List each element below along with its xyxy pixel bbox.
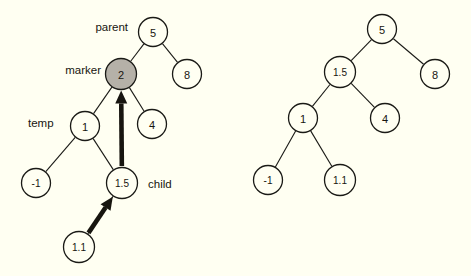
tree-node-1.5[interactable]: 1.5 [325,57,356,88]
tree-node-8[interactable]: 8 [173,60,202,89]
tree-edge-5-to-1.5 [351,40,371,61]
arrow-1.5-to-2 [115,91,127,167]
tree-edge-1-to-1.5 [93,139,113,170]
node-value--1: -1 [264,175,273,186]
tree-node-1[interactable]: 1 [71,112,100,141]
tree-node-2[interactable]: 2 [106,59,137,90]
right-tree-nodes-group: 51.5814-11.1 [254,15,450,196]
tree-edge-5-to-2 [131,44,144,61]
annotation-child: child [148,178,172,190]
node-value-1.1: 1.1 [333,175,347,186]
node-value-4: 4 [149,119,155,131]
tree-node-4[interactable]: 4 [138,110,167,139]
node-value-8: 8 [184,69,190,81]
node-value--1: -1 [32,178,41,189]
arrow-1.5-to-2-shaft [121,104,122,167]
tree-diagram-figure: 52814-11.51.1parentmarkertempchild51.581… [0,0,471,276]
tree-node--1[interactable]: -1 [254,166,283,195]
node-value-1.5: 1.5 [115,178,129,189]
annotation-marker: marker [65,64,101,76]
node-value-8: 8 [432,69,438,81]
tree-node-5[interactable]: 5 [139,18,168,47]
tree-node-1[interactable]: 1 [289,104,318,133]
tree-edge-5-to-8 [162,44,177,63]
tree-node--1[interactable]: -1 [22,169,51,198]
tree-edge-1.5-to-1 [312,84,330,106]
left-tree-nodes-group: 52814-11.51.1 [22,18,202,263]
node-value-1: 1 [300,113,306,125]
tree-edge-1-to-1.1 [311,131,332,166]
tree-edge-1-to--1 [46,137,75,171]
tree-node-5[interactable]: 5 [368,15,397,44]
right-tree-edges-group [275,39,423,167]
tree-node-1.1[interactable]: 1.1 [325,165,356,196]
arrow-1.5-to-2-head [115,91,127,104]
annotation-parent: parent [95,21,128,33]
arrow-1.1-to-1.5 [88,197,112,233]
tree-node-1.1[interactable]: 1.1 [64,232,95,263]
node-value-5: 5 [379,24,385,36]
tree-edge-2-to-1 [94,87,112,114]
node-value-5: 5 [150,27,156,39]
tree-edge-1-to--1 [275,131,295,167]
node-value-2: 2 [118,69,124,81]
node-value-1.1: 1.1 [72,242,86,253]
tree-node-1.5[interactable]: 1.5 [107,168,138,199]
diagram-canvas: 52814-11.51.1parentmarkertempchild51.581… [0,0,471,276]
tree-edge-5-to-8 [393,39,423,65]
node-value-4: 4 [382,113,388,125]
annotation-temp: temp [28,117,54,129]
arrow-1.1-to-1.5-shaft [88,207,105,232]
tree-edge-2-to-4 [129,88,144,112]
tree-edge-1.5-to-4 [351,83,374,107]
node-value-1: 1 [82,121,88,133]
tree-node-4[interactable]: 4 [371,104,400,133]
tree-node-8[interactable]: 8 [421,60,450,89]
node-value-1.5: 1.5 [333,67,347,78]
